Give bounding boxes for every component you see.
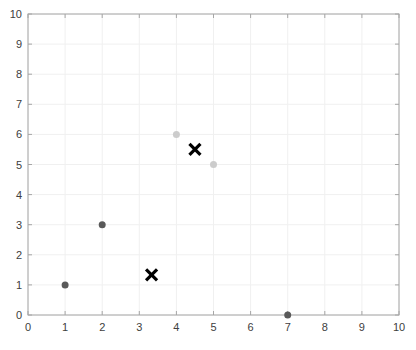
data-point-cluster-2 [173,131,180,138]
x-tick-label: 10 [393,321,405,333]
data-point-cluster-2 [210,161,217,168]
x-tick-labels: 012345678910 [25,321,405,333]
data-point-cluster-1 [99,221,106,228]
y-tick-label: 3 [16,219,22,231]
x-tick-label: 5 [210,321,216,333]
x-tick-label: 0 [25,321,31,333]
y-tick-label: 6 [16,128,22,140]
x-tick-label: 6 [248,321,254,333]
scatter-chart: 012345678910 012345678910 [0,0,416,350]
y-tick-labels: 012345678910 [10,8,22,321]
data-point-cluster-1 [62,281,69,288]
y-tick-label: 2 [16,249,22,261]
x-tick-label: 7 [285,321,291,333]
x-tick-label: 8 [322,321,328,333]
centroid-x-marker [189,144,200,155]
x-tick-label: 4 [173,321,179,333]
x-tick-label: 3 [136,321,142,333]
y-tick-label: 10 [10,8,22,20]
y-tick-label: 1 [16,279,22,291]
y-tick-label: 5 [16,159,22,171]
y-tick-label: 9 [16,38,22,50]
x-tick-label: 9 [359,321,365,333]
x-tick-label: 2 [99,321,105,333]
x-tick-label: 1 [62,321,68,333]
y-tick-label: 8 [16,68,22,80]
y-tick-label: 4 [16,189,22,201]
y-tick-label: 0 [16,309,22,321]
data-point-cluster-1 [284,312,291,319]
centroid-x-marker [146,269,157,280]
y-tick-label: 7 [16,98,22,110]
